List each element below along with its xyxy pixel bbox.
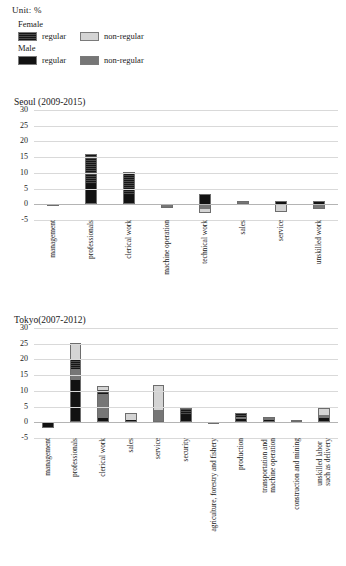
- bar-segment[interactable]: [153, 410, 165, 422]
- bar-segment[interactable]: [180, 408, 192, 415]
- y-tick-label: 15: [0, 371, 28, 379]
- legend-swatch-male-non-regular: [80, 56, 99, 65]
- bar-segment[interactable]: [235, 417, 247, 420]
- gridline: [34, 344, 338, 345]
- x-tick-label: clerical work: [99, 438, 107, 477]
- y-tick-label: 30: [0, 324, 28, 332]
- y-tick-label: 15: [0, 153, 28, 161]
- gridline: [34, 359, 338, 360]
- y-tick-label: 25: [0, 122, 28, 130]
- y-tick-label: 5: [0, 403, 28, 411]
- gridline: [34, 204, 338, 205]
- x-tick-label: production: [237, 438, 245, 470]
- bar-segment[interactable]: [263, 417, 275, 420]
- x-tick-label: machine operation: [163, 220, 171, 275]
- bar-segment[interactable]: [180, 415, 192, 422]
- gridline: [34, 126, 338, 127]
- bar-segment[interactable]: [70, 380, 82, 422]
- x-tick-label: management: [49, 220, 57, 258]
- legend-swatch-female-non-regular: [80, 32, 99, 41]
- gridline: [34, 110, 338, 111]
- x-axis-labels-tokyo: managementprofessionalsclerical worksale…: [34, 438, 338, 548]
- legend-group-female-title: Female: [18, 19, 258, 29]
- gridline: [34, 407, 338, 408]
- x-tick-label: service: [277, 220, 285, 241]
- bar-segment[interactable]: [70, 343, 82, 360]
- x-axis-labels-seoul: managementprofessionalsclerical workmach…: [34, 220, 338, 298]
- x-tick-label: unskilled work: [315, 220, 323, 264]
- gridline: [34, 391, 338, 392]
- bar-segment[interactable]: [275, 204, 286, 212]
- legend-swatch-female-regular: [18, 32, 37, 41]
- x-tick-label: sales: [127, 438, 135, 452]
- legend-row-male: regular non-regular: [18, 54, 258, 66]
- y-axis-seoul: 302520151050-5: [0, 110, 32, 220]
- plot-area-tokyo: 302520151050-5: [0, 328, 346, 438]
- chart-tokyo: Tokyo(2007-2012) 302520151050-5 manageme…: [0, 315, 346, 438]
- y-tick-label: 10: [0, 169, 28, 177]
- y-tick-label: 20: [0, 355, 28, 363]
- y-tick-label: 5: [0, 185, 28, 193]
- gridline: [34, 422, 338, 423]
- bar-segment[interactable]: [85, 184, 96, 204]
- x-tick-label: transportation and machine operation: [261, 438, 277, 493]
- unit-note: Unit: %: [12, 5, 42, 15]
- legend: Female regular non-regular Male regular …: [18, 19, 258, 67]
- bar-segment[interactable]: [199, 209, 210, 213]
- y-tick-label: -5: [0, 216, 28, 224]
- x-tick-label: clerical work: [125, 220, 133, 259]
- legend-row-female: regular non-regular: [18, 30, 258, 42]
- chart-title-tokyo: Tokyo(2007-2012): [14, 315, 346, 326]
- x-tick-label: unskilled labor such as delivery: [316, 438, 332, 486]
- bar-segment[interactable]: [318, 408, 330, 415]
- bar-segment[interactable]: [70, 360, 82, 369]
- bar-segment[interactable]: [85, 154, 96, 184]
- bar-segment[interactable]: [237, 201, 248, 204]
- y-tick-label: 30: [0, 106, 28, 114]
- y-axis-tokyo: 302520151050-5: [0, 328, 32, 438]
- bar-segment[interactable]: [161, 207, 172, 208]
- x-tick-label: service: [154, 438, 162, 459]
- legend-label-female-regular: regular: [42, 31, 66, 41]
- y-tick-label: 10: [0, 387, 28, 395]
- x-tick-label: security: [182, 438, 190, 461]
- legend-label-male-regular: regular: [42, 55, 66, 65]
- plot-seoul: [34, 110, 338, 220]
- bar-segment[interactable]: [123, 195, 134, 204]
- bar-segment[interactable]: [318, 415, 330, 418]
- bar-segment[interactable]: [235, 413, 247, 415]
- plot-tokyo: [34, 328, 338, 438]
- bar-segment[interactable]: [125, 413, 137, 421]
- x-tick-label: agriculture, forestry and fishery: [210, 438, 218, 532]
- y-tick-label: 25: [0, 340, 28, 348]
- legend-swatch-male-regular: [18, 56, 37, 65]
- chart-seoul: Seoul (2009-2015) 302520151050-5 managem…: [0, 97, 346, 220]
- plot-area-seoul: 302520151050-5: [0, 110, 346, 220]
- bar-segment[interactable]: [123, 172, 134, 195]
- x-tick-label: management: [44, 438, 52, 476]
- x-tick-label: technical work: [201, 220, 209, 264]
- x-tick-label: professionals: [87, 220, 95, 259]
- y-tick-label: 20: [0, 137, 28, 145]
- legend-label-male-non-regular: non-regular: [104, 55, 144, 65]
- gridline: [34, 173, 338, 174]
- figure-page: Unit: % Female regular non-regular Male …: [0, 0, 346, 566]
- bar-segment[interactable]: [199, 194, 210, 205]
- gridline: [34, 328, 338, 329]
- y-tick-label: 0: [0, 418, 28, 426]
- x-tick-label: construction and mining: [293, 438, 301, 510]
- x-tick-label: professionals: [71, 438, 79, 477]
- y-tick-label: -5: [0, 434, 28, 442]
- legend-group-male-title: Male: [18, 43, 258, 53]
- legend-label-female-non-regular: non-regular: [104, 31, 144, 41]
- bar-segment[interactable]: [235, 414, 247, 416]
- y-tick-label: 0: [0, 200, 28, 208]
- x-tick-label: sales: [239, 220, 247, 234]
- bar-segment[interactable]: [97, 386, 109, 391]
- gridline: [34, 189, 338, 190]
- gridline: [34, 141, 338, 142]
- chart-title-seoul: Seoul (2009-2015): [14, 97, 346, 108]
- gridline: [34, 375, 338, 376]
- gridline: [34, 157, 338, 158]
